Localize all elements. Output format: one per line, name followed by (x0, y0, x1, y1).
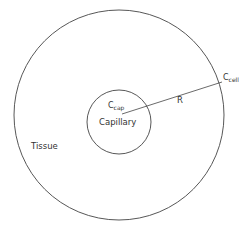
capillary-label: Capillary (99, 118, 136, 127)
tissue-outer-circle (14, 10, 224, 220)
c-cell-sub: cell (229, 76, 239, 83)
diagram-canvas: Ccap Capillary R Ccell Tissue (0, 0, 251, 229)
radius-line (122, 82, 222, 114)
c-cap-sub: cap (114, 104, 125, 111)
radius-label: R (177, 96, 183, 105)
c-cell-label: Ccell (223, 74, 239, 83)
c-cap-label: Ccap (108, 102, 124, 111)
diagram-svg (0, 0, 251, 229)
tissue-label: Tissue (31, 142, 58, 151)
